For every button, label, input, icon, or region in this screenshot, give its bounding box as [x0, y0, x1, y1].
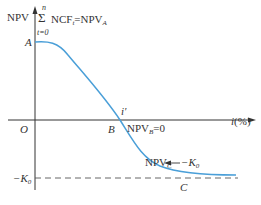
point-c-annotation-npv: NPVC [145, 157, 172, 170]
asymptote-text: −K [13, 172, 28, 184]
point-c-label: C [180, 182, 187, 193]
neg-k0-text: −K [181, 156, 196, 168]
npv-c-text: NPV [145, 156, 167, 168]
neg-k0-subscript: 0 [196, 162, 200, 170]
npv-c-subscript: C [167, 162, 172, 170]
sum-lower-limit: t=0 [37, 29, 49, 37]
point-b-label: B [108, 124, 115, 135]
origin-label: O [20, 124, 28, 135]
x-axis-label: i(%) [231, 116, 251, 127]
asymptote-label: −K0 [13, 173, 31, 186]
npv-irr-diagram: NPV n Σ t=0 NCFt=NPVA A O i' B NPVB=0 i(… [0, 0, 261, 205]
point-b-annotation: NPVB=0 [127, 123, 165, 136]
y-axis-label: NPV [7, 12, 29, 23]
point-c-annotation-target: −K0 [181, 157, 199, 170]
npv-b-eq: =0 [153, 122, 165, 134]
point-a-label: A [25, 37, 32, 48]
point-a-annotation: NCFt=NPVA [51, 14, 107, 27]
asymptote-subscript: 0 [28, 178, 32, 186]
ncf-text: NCF [51, 13, 72, 25]
irr-label: i' [121, 106, 126, 117]
y-axis-arrow-icon [33, 6, 38, 14]
npv-b-text: NPV [127, 122, 149, 134]
npv-a-subscript: A [103, 19, 107, 27]
npv-a-text: =NPV [74, 13, 102, 25]
sigma-symbol: Σ [38, 11, 46, 24]
npv-curve [35, 42, 236, 175]
